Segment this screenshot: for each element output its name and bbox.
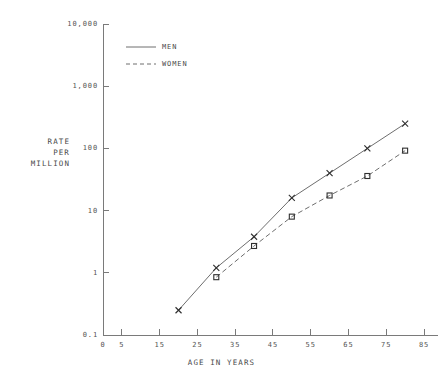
data-point-marker-men	[213, 265, 219, 271]
chart-series-group	[176, 121, 409, 314]
x-axis-ticks	[103, 329, 424, 335]
data-point-marker-men	[364, 145, 370, 151]
y-axis-title: RATE PER MILLION	[8, 136, 70, 169]
data-point-marker-men	[176, 307, 182, 313]
y-tick-label: 1	[40, 269, 98, 277]
data-point-marker-men	[402, 121, 408, 127]
data-point-marker-men	[251, 234, 257, 240]
y-tick-label: 0.1	[40, 331, 98, 339]
y-tick-label: 10	[40, 207, 98, 215]
y-axis-title-line-2: PER	[8, 147, 70, 158]
x-tick-label: 55	[296, 341, 326, 349]
y-tick-label: 1,000	[40, 82, 98, 90]
x-tick-label: 45	[258, 341, 288, 349]
x-tick-label: 75	[371, 341, 401, 349]
x-tick-label: 15	[145, 341, 175, 349]
chart-axes	[103, 24, 438, 335]
legend-swatches	[126, 47, 156, 64]
chart-plot-area	[0, 0, 443, 381]
legend-label-men: MEN	[162, 43, 177, 51]
x-tick-label: 65	[333, 341, 363, 349]
x-tick-label: 5	[107, 341, 137, 349]
legend-label-women: WOMEN	[162, 60, 188, 68]
series-line-women	[216, 151, 405, 278]
data-point-marker-men	[327, 170, 333, 176]
x-tick-label: 35	[220, 341, 250, 349]
x-tick-label: 25	[182, 341, 212, 349]
y-axis-ticks	[103, 24, 109, 335]
y-axis-title-line-1: RATE	[8, 136, 70, 147]
x-axis-title: AGE IN YEARS	[0, 358, 443, 367]
x-tick-label: 85	[409, 341, 439, 349]
data-point-marker-men	[289, 195, 295, 201]
chart-container: 0.11101001,00010,000 051525354555657585 …	[0, 0, 443, 381]
y-axis-title-line-3: MILLION	[8, 158, 70, 169]
y-tick-label: 10,000	[40, 20, 98, 28]
